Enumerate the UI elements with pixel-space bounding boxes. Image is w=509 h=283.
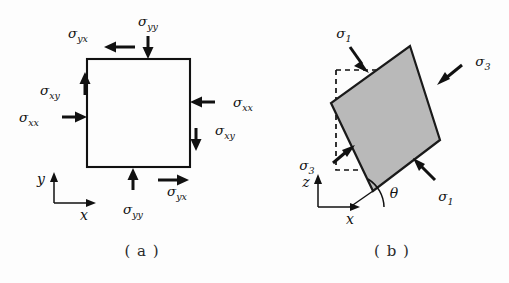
label-sigma-yy-top: σyy [138, 13, 159, 32]
panel-a-axis-label-x: x [80, 207, 88, 223]
arrow-top-shear [104, 42, 135, 53]
stress-element-figure: σyx σyy σxy σxx [0, 0, 509, 283]
arrow-left-normal [62, 112, 87, 123]
arrow-lower-right-principal [413, 158, 435, 180]
label-sigma-1-lower-right: σ1 [438, 188, 453, 207]
label-sigma-3-upper-right: σ3 [475, 53, 490, 72]
panel-a-square-element [87, 59, 190, 167]
panel-a: σyx σyy σxy σxx [19, 13, 254, 260]
label-sigma-yx-bottom: σyx [167, 183, 188, 202]
panel-b-axis-label-x: x [346, 211, 354, 227]
arrow-top-normal [143, 36, 154, 59]
arrow-upper-right-principal [437, 65, 462, 85]
arrow-right-shear [191, 128, 202, 151]
panel-b-caption: ( b ) [374, 242, 410, 260]
panel-a-axes [50, 172, 96, 207]
panel-a-caption: ( a ) [124, 242, 159, 260]
label-sigma-1-upper-left: σ1 [336, 25, 351, 44]
label-sigma-xx-right: σxx [233, 94, 254, 113]
label-sigma-xx-left: σxx [19, 109, 40, 128]
figure-root: σyx σyy σxy σxx [0, 0, 509, 283]
arrow-right-normal [190, 97, 215, 108]
arrow-upper-left-principal [350, 47, 369, 73]
panel-b-theta-label: θ [390, 185, 399, 201]
label-sigma-yy-bottom: σyy [123, 201, 144, 220]
panel-a-axis-label-y: y [36, 171, 46, 187]
arrow-left-shear [80, 72, 91, 95]
label-sigma-xy-right: σxy [215, 122, 236, 141]
label-sigma-xy-left: σxy [40, 82, 61, 101]
panel-b: σ1 σ3 σ3 σ1 [299, 25, 490, 260]
label-sigma-yx-top: σyx [68, 25, 89, 44]
arrow-bottom-normal [128, 168, 139, 190]
panel-b-axis-label-z: z [301, 174, 310, 190]
label-sigma-3-lower-left: σ3 [299, 157, 314, 176]
